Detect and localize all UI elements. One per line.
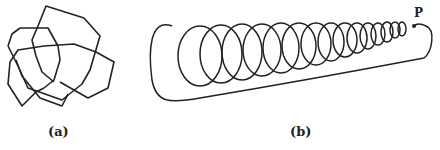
point-p-label: P <box>414 6 423 20</box>
caption-a: (a) <box>48 124 69 139</box>
caption-b: (b) <box>290 124 311 139</box>
coil-diagram-b <box>0 0 440 120</box>
point-p-marker <box>412 24 416 28</box>
